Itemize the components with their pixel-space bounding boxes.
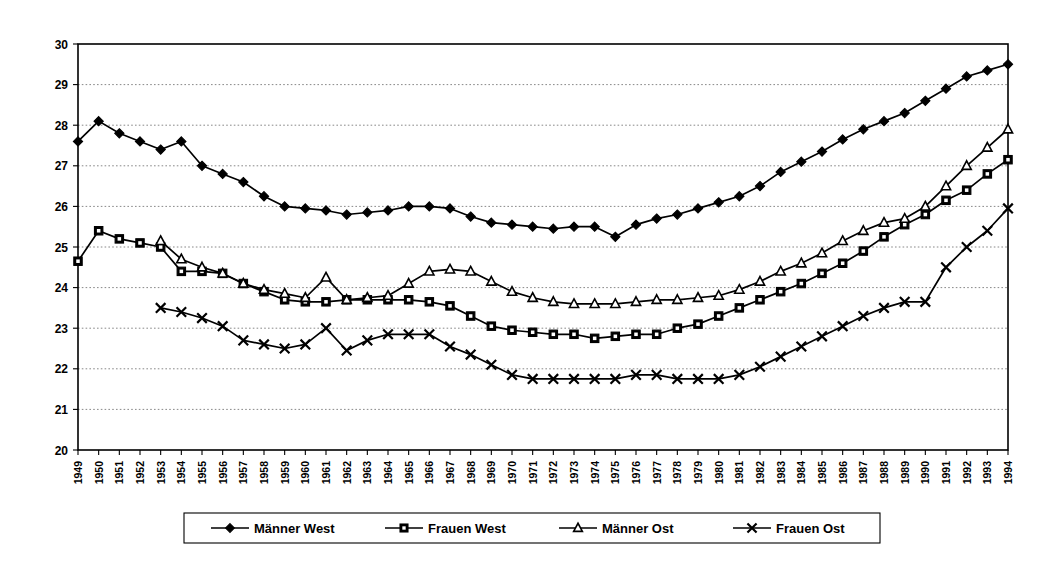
- data-point-square-inner: [97, 229, 101, 233]
- x-axis-tick-label: 1990: [919, 461, 931, 485]
- data-point-square-inner: [1006, 158, 1010, 162]
- x-axis-tick-label: 1979: [692, 461, 704, 485]
- x-axis-tick-label: 1955: [196, 461, 208, 485]
- x-axis-tick-label: 1968: [465, 461, 477, 485]
- data-point-square-inner: [655, 333, 659, 337]
- data-point-square-inner: [138, 241, 142, 245]
- data-point-square-inner: [402, 526, 405, 529]
- data-point-square-inner: [986, 172, 990, 176]
- data-point-square-inner: [820, 272, 824, 276]
- data-point-square-inner: [324, 300, 328, 304]
- x-axis-tick-label: 1983: [775, 461, 787, 485]
- y-axis-tick-label: 22: [55, 362, 69, 376]
- data-point-square-inner: [717, 314, 721, 318]
- y-axis-tick-label: 30: [55, 38, 69, 52]
- data-point-square-inner: [593, 337, 597, 341]
- y-axis-tick-label: 23: [55, 322, 69, 336]
- x-axis-tick-label: 1960: [299, 461, 311, 485]
- data-point-square-inner: [841, 261, 845, 265]
- y-axis-tick-label: 25: [55, 241, 69, 255]
- x-axis-tick-label: 1994: [1002, 461, 1014, 485]
- data-point-square-inner: [510, 328, 514, 332]
- data-point-square-inner: [407, 298, 411, 302]
- data-point-square-inner: [448, 304, 452, 308]
- y-axis-tick-label: 27: [55, 159, 69, 173]
- data-point-square-inner: [180, 270, 184, 274]
- legend-label: Frauen Ost: [776, 521, 845, 536]
- data-point-square-inner: [882, 235, 886, 239]
- data-point-square-inner: [159, 245, 163, 249]
- x-axis-tick-label: 1991: [940, 461, 952, 485]
- x-axis-tick-label: 1950: [93, 461, 105, 485]
- x-axis-tick-label: 1965: [403, 461, 415, 485]
- data-point-square-inner: [552, 333, 556, 337]
- x-axis-tick-label: 1986: [837, 461, 849, 485]
- x-axis-tick-label: 1966: [423, 461, 435, 485]
- x-axis-tick-label: 1959: [279, 461, 291, 485]
- x-axis-tick-label: 1980: [713, 461, 725, 485]
- y-axis-tick-label: 28: [55, 119, 69, 133]
- data-point-square-inner: [696, 322, 700, 326]
- x-axis-tick-label: 1969: [485, 461, 497, 485]
- x-axis-tick-label: 1977: [651, 461, 663, 485]
- x-axis-tick-label: 1962: [341, 461, 353, 485]
- x-axis-tick-label: 1993: [981, 461, 993, 485]
- data-point-square-inner: [531, 330, 535, 334]
- x-axis-tick-label: 1961: [320, 461, 332, 485]
- x-axis-tick-label: 1982: [754, 461, 766, 485]
- x-axis-tick-label: 1973: [568, 461, 580, 485]
- x-axis-tick-label: 1978: [671, 461, 683, 485]
- x-axis-tick-label: 1992: [961, 461, 973, 485]
- x-axis-tick-label: 1951: [113, 461, 125, 485]
- x-axis-tick-label: 1957: [237, 461, 249, 485]
- data-point-square-inner: [469, 314, 473, 318]
- legend-label: Frauen West: [428, 521, 506, 536]
- x-axis-tick-label: 1964: [382, 461, 394, 485]
- y-axis-tick-label: 29: [55, 78, 69, 92]
- x-axis-tick-label: 1963: [361, 461, 373, 485]
- chart-container: 2021222324252627282930 19491950195119521…: [0, 0, 1062, 567]
- y-axis-tick-label: 26: [55, 200, 69, 214]
- data-point-square-inner: [903, 223, 907, 227]
- y-axis-tick-label: 21: [55, 403, 69, 417]
- data-point-square-inner: [118, 237, 122, 241]
- data-point-square-inner: [944, 199, 948, 203]
- y-axis-tick-label: 24: [55, 281, 69, 295]
- x-axis-tick-label: 1985: [816, 461, 828, 485]
- data-point-square-inner: [800, 282, 804, 286]
- data-point-square-inner: [738, 306, 742, 310]
- data-point-square-inner: [572, 333, 576, 337]
- x-axis-tick-label: 1952: [134, 461, 146, 485]
- y-axis-tick-label: 20: [55, 444, 69, 458]
- x-axis-tick-label: 1953: [155, 461, 167, 485]
- data-point-square-inner: [862, 249, 866, 253]
- line-chart: 2021222324252627282930 19491950195119521…: [0, 0, 1062, 567]
- data-point-square-inner: [634, 333, 638, 337]
- x-axis-tick-label: 1971: [527, 461, 539, 485]
- x-axis-tick-label: 1976: [630, 461, 642, 485]
- data-point-square-inner: [965, 188, 969, 192]
- data-point-square-inner: [283, 298, 287, 302]
- data-point-square-inner: [614, 335, 618, 339]
- x-axis-tick-label: 1974: [589, 461, 601, 485]
- data-point-square-inner: [779, 290, 783, 294]
- data-point-square-inner: [490, 324, 494, 328]
- x-axis-tick-label: 1949: [72, 461, 84, 485]
- x-axis-tick-label: 1958: [258, 461, 270, 485]
- chart-legend: Männer WestFrauen WestMänner OstFrauen O…: [184, 513, 880, 543]
- x-axis-tick-label: 1988: [878, 461, 890, 485]
- x-axis-tick-label: 1967: [444, 461, 456, 485]
- legend-label: Männer West: [254, 521, 335, 536]
- data-point-square-inner: [924, 213, 928, 217]
- x-axis-tick-label: 1972: [547, 461, 559, 485]
- x-axis-tick-label: 1970: [506, 461, 518, 485]
- x-axis-tick-label: 1975: [609, 461, 621, 485]
- x-axis-tick-label: 1987: [857, 461, 869, 485]
- data-point-square-inner: [676, 326, 680, 330]
- data-point-square-inner: [758, 298, 762, 302]
- x-axis-tick-label: 1956: [217, 461, 229, 485]
- data-point-square-inner: [428, 300, 432, 304]
- x-axis-tick-label: 1954: [175, 461, 187, 485]
- x-axis-tick-label: 1989: [899, 461, 911, 485]
- x-axis-tick-label: 1981: [733, 461, 745, 485]
